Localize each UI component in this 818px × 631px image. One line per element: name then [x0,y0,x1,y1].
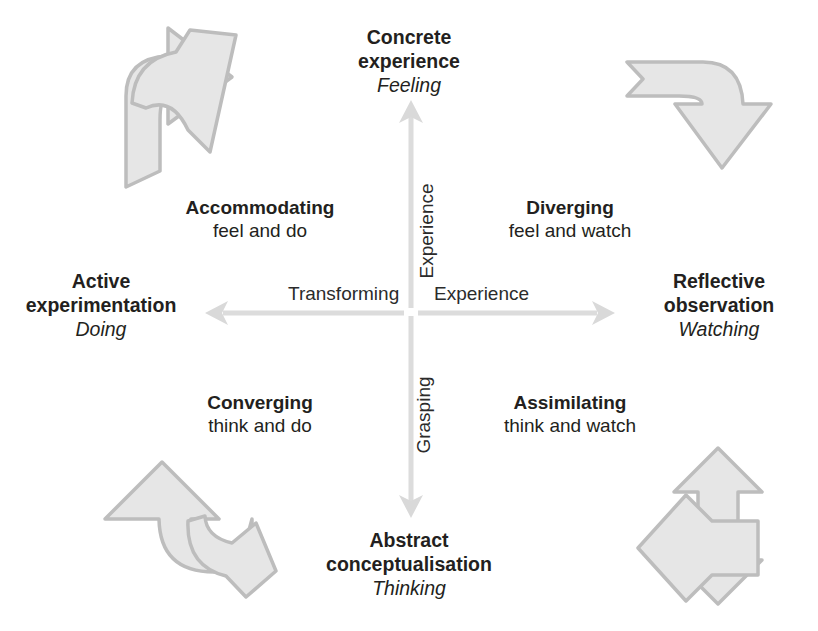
pole-top-title-line2: experience [309,50,509,74]
quadrant-bl-title: Converging [150,391,370,414]
curved-arrow-up-left-tail-icon [188,516,276,597]
curved-arrow-down-right-icon [627,62,771,168]
quadrant-label-assimilating: Assimilating think and watch [450,391,690,438]
pole-label-concrete-experience: Concrete experience Feeling [309,26,509,98]
pole-label-abstract-conceptualisation: Abstract conceptualisation Thinking [309,529,509,601]
pole-bottom-title-line1: Abstract [309,529,509,553]
pole-right-title-line2: observation [626,294,812,318]
quadrant-label-converging: Converging think and do [150,391,370,438]
pole-top-title-line1: Concrete [309,26,509,50]
pole-label-active-experimentation: Active experimentation Doing [8,270,194,342]
quadrant-tr-title: Diverging [460,196,680,219]
quadrant-bl-subtitle: think and do [150,414,370,437]
pole-right-subtitle: Watching [626,318,812,342]
pole-left-title-line2: experimentation [8,294,194,318]
quadrant-label-diverging: Diverging feel and watch [460,196,680,243]
pole-bottom-title-line2: conceptualisation [309,553,509,577]
pole-left-title-line1: Active [8,270,194,294]
axis-label-transforming: Transforming [288,283,399,305]
pole-bottom-subtitle: Thinking [309,577,509,601]
quadrant-br-title: Assimilating [450,391,690,414]
diagram-canvas: Concrete experience Feeling Abstract con… [0,0,818,631]
pole-left-subtitle: Doing [8,318,194,342]
axis-label-experience-horizontal: Experience [434,283,529,305]
quadrant-tr-subtitle: feel and watch [460,219,680,242]
quadrant-br-subtitle: think and watch [450,414,690,437]
quadrant-tl-subtitle: feel and do [150,219,370,242]
pole-label-reflective-observation: Reflective observation Watching [626,270,812,342]
quadrant-label-accommodating: Accommodating feel and do [150,196,370,243]
quadrant-tl-title: Accommodating [150,196,370,219]
pole-top-subtitle: Feeling [309,74,509,98]
pole-right-title-line1: Reflective [626,270,812,294]
axis-label-grasping: Grasping [413,372,435,458]
axis-label-experience-vertical: Experience [416,179,438,283]
curved-arrow-down-left-head-icon [638,495,758,601]
